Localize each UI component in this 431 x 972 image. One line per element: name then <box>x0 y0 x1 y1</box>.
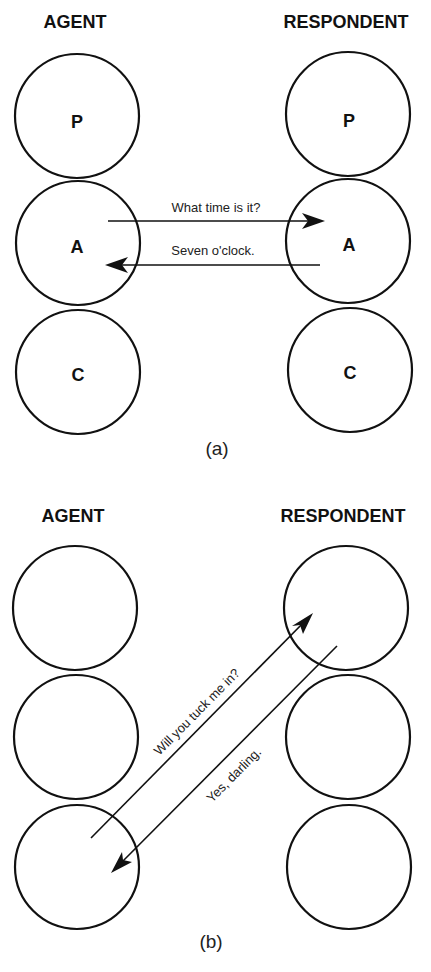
panel-b: AGENT RESPONDENT Will you tuck me in? Ye… <box>13 506 411 952</box>
agent-adult-circle <box>14 675 138 799</box>
agent-title: AGENT <box>42 506 105 526</box>
panel-a: AGENT RESPONDENT P A C P A C What time i… <box>15 12 412 459</box>
respondent-title: RESPONDENT <box>283 12 408 32</box>
caption-a: (a) <box>205 438 228 459</box>
respondent-adult-circle <box>286 675 410 799</box>
transactional-analysis-diagram: AGENT RESPONDENT P A C P A C What time i… <box>0 0 431 972</box>
respondent-title: RESPONDENT <box>280 506 405 526</box>
respondent-ego-states: P A C <box>286 52 412 432</box>
stimulus-message: What time is it? <box>172 200 261 215</box>
response-message: Seven o'clock. <box>171 243 254 258</box>
agent-ego-states <box>13 546 139 929</box>
stimulus-message: Will you tuck me in? <box>151 665 243 758</box>
agent-title: AGENT <box>44 12 107 32</box>
respondent-child-label: C <box>344 363 357 383</box>
caption-b: (b) <box>199 931 222 952</box>
agent-parent-label: P <box>71 112 83 132</box>
response-message: Yes, darling. <box>203 744 264 805</box>
agent-child-label: C <box>72 365 85 385</box>
agent-adult-label: A <box>71 237 84 257</box>
respondent-parent-label: P <box>343 111 355 131</box>
agent-ego-states: P A C <box>15 54 140 434</box>
respondent-parent-circle <box>284 546 408 670</box>
respondent-child-circle <box>287 805 411 929</box>
respondent-adult-label: A <box>343 235 356 255</box>
respondent-ego-states <box>284 546 411 929</box>
agent-parent-circle <box>13 546 137 670</box>
